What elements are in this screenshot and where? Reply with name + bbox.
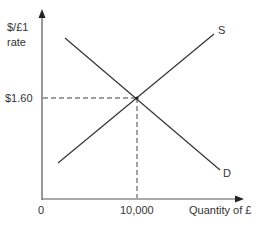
y-axis-arrow-icon bbox=[39, 9, 46, 18]
demand-label: D bbox=[223, 167, 231, 179]
y-tick-label: $1.60 bbox=[5, 92, 33, 104]
supply-label: S bbox=[218, 24, 225, 36]
chart-canvas: $/£1 rate $1.60 0 10,000 Quantity of £ S… bbox=[0, 0, 262, 228]
demand-curve bbox=[65, 38, 220, 170]
x-tick-label: 10,000 bbox=[120, 204, 154, 216]
origin-label: 0 bbox=[38, 204, 44, 216]
y-axis-label-line1: $/£1 bbox=[7, 21, 28, 33]
x-axis-arrow-icon bbox=[235, 196, 244, 203]
x-axis-label: Quantity of £ bbox=[189, 204, 251, 216]
equilibrium-point bbox=[135, 96, 138, 99]
y-axis-label-line2: rate bbox=[7, 36, 26, 48]
